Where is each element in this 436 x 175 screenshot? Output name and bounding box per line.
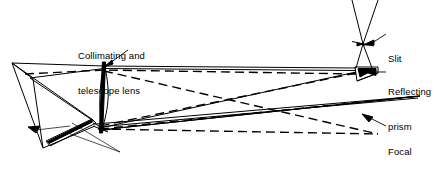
mirror-wedge-left-edge (12, 63, 43, 148)
dashed-ray-lower-long (100, 96, 420, 129)
incoming-ray-bundle (352, 0, 378, 68)
optical-diagram: Collimating and telescope lens Slit Refl… (0, 0, 436, 175)
reflecting-surface-face (48, 120, 93, 144)
slit-to-prism-ray-right (363, 44, 372, 68)
label-line-1: Collimating and (78, 50, 145, 62)
label-line-2: telescope lens (78, 85, 145, 97)
incoming-ray-right (363, 0, 378, 44)
arrowhead-slit (363, 40, 374, 45)
label-focal-plane: Focal plane (388, 123, 412, 175)
optics-ray-diagram (0, 0, 436, 175)
label-collimating-telescope-lens: Collimating and telescope lens (78, 27, 145, 119)
label-line-1: Reflecting (388, 86, 431, 98)
leader-focal-plane (370, 118, 386, 126)
dashed-ray-bottom-flat (98, 129, 378, 134)
label-reflecting-surface: Reflecting surface (68, 156, 146, 175)
mirror-wedge-inner-edge (33, 79, 43, 148)
arrowhead-focal-plane (362, 114, 373, 122)
incoming-ray-left (352, 0, 363, 44)
leader-reflecting-surface-2 (68, 133, 120, 152)
label-line-1: Focal (388, 146, 412, 158)
leader-reflecting-surface-3 (36, 126, 70, 130)
slit-to-prism-ray-left (356, 44, 363, 68)
